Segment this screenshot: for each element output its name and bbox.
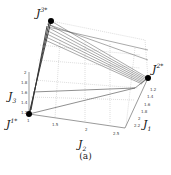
edge-j1-j2 (29, 78, 148, 114)
svg-text:1.2: 1.2 (150, 87, 157, 92)
figure-caption: (a) (0, 151, 171, 161)
svg-text:2.2: 2.2 (134, 123, 141, 128)
svg-text:1: 1 (27, 118, 30, 123)
svg-text:1.6: 1.6 (21, 90, 28, 95)
axes (29, 72, 148, 128)
axis-label-j1: J1 (143, 118, 151, 132)
svg-text:1.5: 1.5 (52, 122, 59, 127)
label-j2-star: J2* (152, 62, 163, 76)
svg-text:2: 2 (138, 116, 141, 121)
svg-text:1.4: 1.4 (147, 94, 154, 99)
label-j3-star: J3* (36, 6, 47, 20)
point-j2-star (145, 75, 151, 81)
svg-text:1.8: 1.8 (21, 80, 28, 85)
edge-j3-j1 (29, 21, 51, 114)
svg-text:2: 2 (85, 127, 88, 132)
svg-text:1.2: 1.2 (21, 110, 28, 115)
z-ticks: 2 1.8 1.6 1.4 1.2 (21, 70, 28, 115)
point-j3-star (48, 18, 54, 24)
svg-text:2.5: 2.5 (113, 131, 120, 136)
svg-text:1.4: 1.4 (21, 100, 28, 105)
svg-text:1.6: 1.6 (144, 102, 151, 107)
label-j1-star: J1* (6, 117, 17, 131)
svg-text:2: 2 (24, 70, 27, 75)
pareto-band (45, 21, 148, 84)
axis-label-j3: J3 (8, 90, 16, 104)
svg-text:1.8: 1.8 (141, 109, 148, 114)
